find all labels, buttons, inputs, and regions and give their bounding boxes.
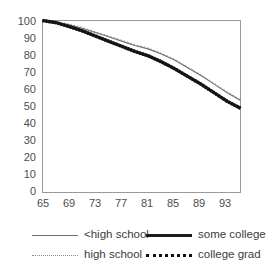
legend-swatch-thick-dotted-icon: [146, 254, 192, 261]
legend-item-high-school[interactable]: high school: [30, 246, 150, 264]
legend-swatch-thin-solid-icon: [32, 235, 78, 240]
legend-item-some-college[interactable]: some college: [144, 226, 270, 244]
legend-item-lt-high-school[interactable]: <high school: [30, 226, 150, 244]
legend-label: high school: [84, 247, 142, 261]
legend-label: <high school: [84, 227, 149, 241]
legend-label: college grad: [198, 247, 261, 261]
legend-swatch-thick-solid-icon: [146, 234, 192, 241]
legend: <high school some college high school co…: [0, 224, 274, 267]
legend-swatch-fine-dotted-icon: [32, 255, 78, 260]
legend-label: some college: [198, 227, 266, 241]
legend-item-college-grad[interactable]: college grad: [144, 246, 270, 264]
plot-area: [0, 0, 274, 220]
line-chart: 100 90 80 70 60 50 40 30 20 10 0 65 69 7…: [0, 0, 274, 267]
